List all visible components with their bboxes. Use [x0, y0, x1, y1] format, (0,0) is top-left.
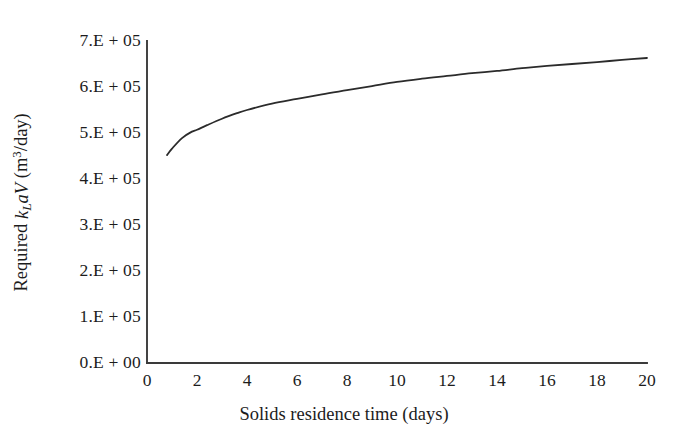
x-tick-label: 20 — [625, 372, 669, 390]
figure-container: Required kLaV (m3/day) 0.E + 001.E + 052… — [0, 0, 688, 441]
x-tick-label: 2 — [175, 372, 219, 390]
x-tick-label: 14 — [475, 372, 519, 390]
axis-lines — [147, 41, 647, 363]
x-tick-label: 12 — [425, 372, 469, 390]
series-line-required-klav — [167, 58, 647, 155]
x-tick-label: 18 — [575, 372, 619, 390]
x-tick-label: 8 — [325, 372, 369, 390]
x-axis-label: Solids residence time (days) — [0, 404, 688, 424]
x-tick-label-layer: 02468101214161820 — [0, 372, 688, 398]
x-tick-label: 0 — [125, 372, 169, 390]
x-tick-label: 10 — [375, 372, 419, 390]
x-tick-label: 6 — [275, 372, 319, 390]
x-tick-label: 16 — [525, 372, 569, 390]
x-tick-label: 4 — [225, 372, 269, 390]
data-series-group — [167, 58, 647, 155]
